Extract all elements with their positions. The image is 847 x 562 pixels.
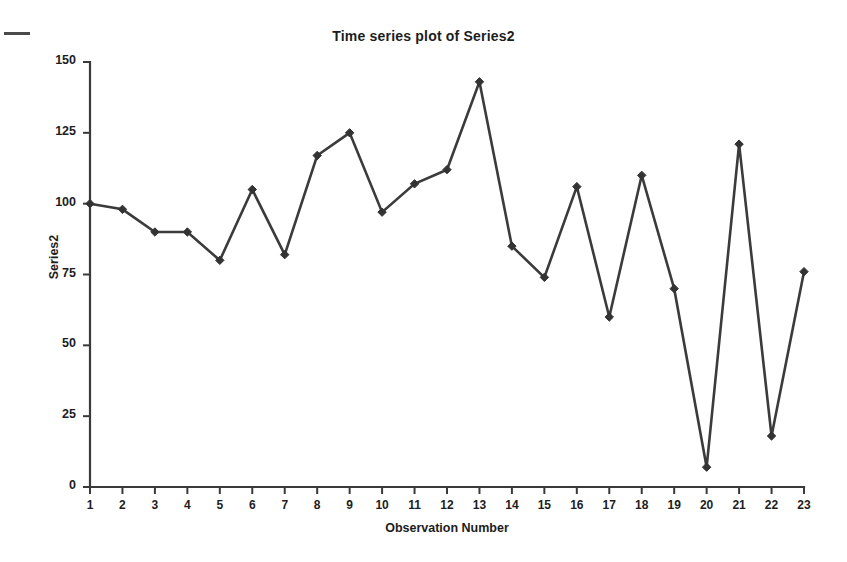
x-tick-label: 12 [435,498,459,512]
series-line [90,82,804,467]
x-tick-label: 20 [695,498,719,512]
x-tick-label: 16 [565,498,589,512]
data-point-marker [573,182,581,190]
x-tick-label: 14 [500,498,524,512]
x-tick-label: 22 [760,498,784,512]
x-tick-label: 13 [467,498,491,512]
y-tick-label: 75 [30,266,76,280]
data-point-marker [735,140,743,148]
x-tick-label: 9 [338,498,362,512]
data-point-marker [800,267,808,275]
x-tick-label: 2 [110,498,134,512]
x-tick-label: 5 [208,498,232,512]
time-series-chart: Time series plot of Series2 Series2 Obse… [0,0,847,562]
x-tick-label: 18 [630,498,654,512]
y-tick-label: 50 [30,336,76,350]
series-markers [86,78,808,472]
x-tick-label: 21 [727,498,751,512]
x-axis [90,487,804,494]
x-tick-label: 15 [532,498,556,512]
x-tick-label: 23 [792,498,816,512]
x-tick-label: 11 [403,498,427,512]
data-point-marker [702,463,710,471]
data-point-marker [443,165,451,173]
data-point-marker [86,199,94,207]
x-tick-label: 7 [273,498,297,512]
x-tick-label: 8 [305,498,329,512]
x-tick-label: 10 [370,498,394,512]
x-tick-label: 19 [662,498,686,512]
x-tick-label: 17 [597,498,621,512]
data-point-marker [281,250,289,258]
data-point-marker [475,78,483,86]
data-point-marker [248,185,256,193]
x-tick-label: 6 [240,498,264,512]
x-tick-label: 4 [175,498,199,512]
y-tick-label: 0 [30,478,76,492]
y-tick-label: 150 [30,53,76,67]
x-tick-label: 3 [143,498,167,512]
x-tick-label: 1 [78,498,102,512]
data-point-marker [670,284,678,292]
y-axis [83,62,90,487]
y-tick-label: 100 [30,195,76,209]
y-tick-label: 125 [30,124,76,138]
data-point-marker [767,432,775,440]
plot-area [0,0,847,562]
data-point-marker [638,171,646,179]
y-tick-label: 25 [30,407,76,421]
data-point-marker [605,313,613,321]
